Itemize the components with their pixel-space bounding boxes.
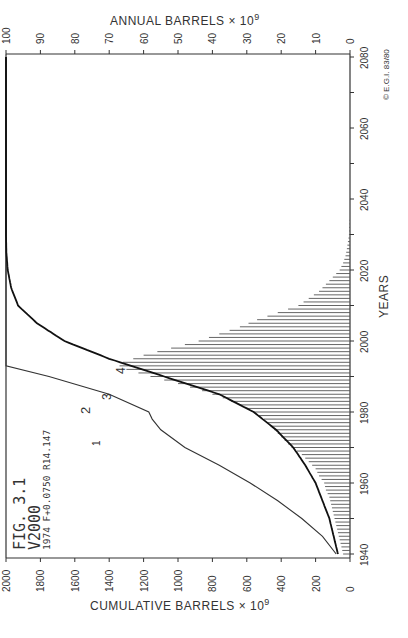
annual-tick-label: 50 xyxy=(173,32,184,44)
annual-production-bars xyxy=(120,220,350,554)
cumulative-tick-label: 600 xyxy=(242,575,253,592)
annual-axis-ticks: 1009080706050403020100 xyxy=(1,27,356,54)
year-tick-label: 1960 xyxy=(359,472,370,495)
plot-frame xyxy=(6,54,350,558)
annual-tick-label: 40 xyxy=(207,32,218,44)
annual-tick-label: 30 xyxy=(242,32,253,44)
cumulative-axis-title: CUMULATIVE BARRELS × 109 xyxy=(90,597,270,613)
annual-tick-label: 60 xyxy=(139,32,150,44)
cumulative-axis-ticks: 2000180016001400120010008006004002000 xyxy=(1,558,356,592)
params-label: 1974 F+0.0750 R14.147 xyxy=(41,430,52,550)
credit-label: © E.G.I. 83/80 xyxy=(382,49,391,100)
annual-tick-label: 70 xyxy=(104,32,115,44)
chart: 1009080706050403020100 20001800160014001… xyxy=(0,0,408,638)
annual-tick-label: 100 xyxy=(1,27,12,44)
annual-tick-label: 10 xyxy=(311,32,322,44)
annual-axis-title: ANNUAL BARRELS × 109 xyxy=(110,12,260,28)
cumulative-tick-label: 400 xyxy=(276,575,287,592)
year-tick-label: 2060 xyxy=(359,117,370,140)
annual-tick-label: 80 xyxy=(70,32,81,44)
figure-caption: FIG. 3.1 V2000 1974 F+0.0750 R14.147 xyxy=(11,430,52,550)
year-tick-label: 2080 xyxy=(359,46,370,69)
cumulative-tick-label: 200 xyxy=(311,575,322,592)
year-tick-label: 1980 xyxy=(359,401,370,424)
cumulative-production-curve xyxy=(6,57,338,554)
curve-label-2: 2 xyxy=(78,407,93,414)
cumulative-tick-label: 800 xyxy=(207,575,218,592)
year-tick-label: 2040 xyxy=(359,188,370,211)
years-axis-title: YEARS xyxy=(377,275,391,318)
year-tick-label: 2020 xyxy=(359,259,370,282)
year-axis-ticks: 19401960198020002020204020602080 xyxy=(350,46,370,566)
cumulative-tick-label: 1200 xyxy=(139,569,150,592)
annual-tick-label: 0 xyxy=(345,38,356,44)
curve-labels: 1 2 3 4 xyxy=(78,367,128,446)
year-tick-label: 2000 xyxy=(359,330,370,353)
curve-label-4: 4 xyxy=(114,367,128,374)
cumulative-tick-label: 2000 xyxy=(1,569,12,592)
annual-tick-label: 90 xyxy=(35,32,46,44)
cumulative-tick-label: 1000 xyxy=(173,569,184,592)
cumulative-tick-label: 1400 xyxy=(104,569,115,592)
cumulative-tick-label: 0 xyxy=(345,586,356,592)
cumulative-tick-label: 1800 xyxy=(35,569,46,592)
cumulative-tick-label: 1600 xyxy=(70,569,81,592)
year-tick-label: 1940 xyxy=(359,543,370,566)
discovery-curve xyxy=(6,57,336,554)
curve-label-3: 3 xyxy=(100,393,114,400)
curve-label-1: 1 xyxy=(91,440,102,446)
annual-tick-label: 20 xyxy=(276,32,287,44)
